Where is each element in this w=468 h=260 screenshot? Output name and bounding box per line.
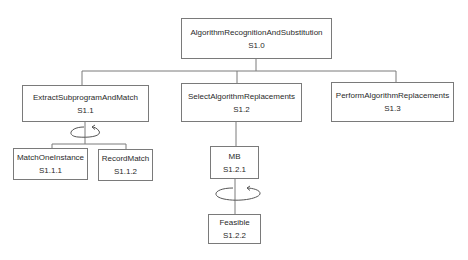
node-name: MatchOneInstance (17, 151, 84, 164)
node-id: S1.1.2 (114, 165, 137, 178)
node-s1-3: PerformAlgorithmReplacements S1.3 (331, 82, 454, 122)
node-name: PerformAlgorithmReplacements (336, 89, 449, 102)
node-id: S1.2.1 (223, 163, 246, 176)
node-s1-2-2: Feasible S1.2.2 (208, 214, 261, 244)
node-s1-1-2: RecordMatch S1.1.2 (98, 149, 153, 181)
loop-arrow-icon (216, 186, 260, 200)
node-s1-1: ExtractSubprogramAndMatch S1.1 (22, 85, 149, 122)
node-id: S1.2.2 (223, 229, 246, 242)
node-id: S1.0 (248, 39, 264, 52)
node-name: AlgorithmRecognitionAndSubstitution (190, 26, 322, 39)
node-id: S1.2 (233, 103, 249, 116)
node-name: SelectAlgorithmReplacements (188, 90, 295, 103)
node-id: S1.1 (77, 104, 93, 117)
node-root: AlgorithmRecognitionAndSubstitution S1.0 (181, 18, 332, 59)
node-name: Feasible (219, 216, 249, 229)
node-name: MB (229, 150, 241, 163)
node-s1-2-1: MB S1.2.1 (210, 146, 259, 179)
node-name: ExtractSubprogramAndMatch (33, 91, 138, 104)
node-id: S1.1.1 (39, 164, 62, 177)
node-id: S1.3 (384, 102, 400, 115)
node-s1-1-1: MatchOneInstance S1.1.1 (13, 148, 88, 180)
node-s1-2: SelectAlgorithmReplacements S1.2 (181, 83, 302, 122)
node-name: RecordMatch (102, 152, 150, 165)
